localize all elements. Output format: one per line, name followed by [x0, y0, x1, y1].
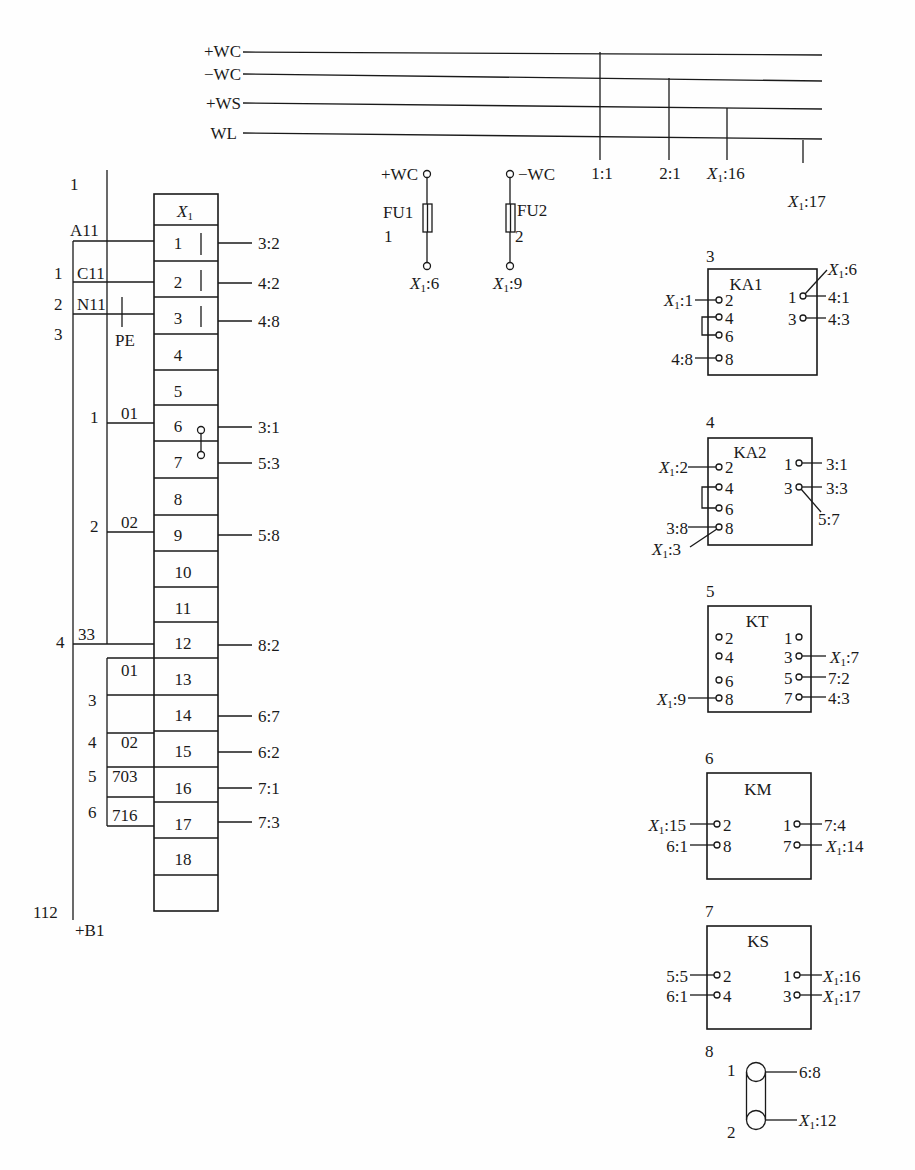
pin-connection: X1:6: [828, 261, 857, 280]
terminal-number: 5: [174, 383, 183, 400]
cable-core-number: 5: [88, 768, 97, 785]
wiring-diagram: +WC −WC +WS WL 1:1 2:1 X1:16 X1:17 +WC F…: [0, 0, 915, 1170]
pin-number: 3: [788, 311, 797, 328]
pin-connection: X1:12: [799, 1112, 837, 1131]
device-name: KA1: [729, 276, 762, 293]
pin-number: 3: [783, 988, 792, 1005]
pin-connection: X1:17: [823, 988, 861, 1007]
pin-connection: 3:8: [666, 520, 688, 537]
terminal-connection: 5:3: [258, 455, 280, 472]
pin-number: 4: [723, 988, 732, 1005]
terminal-number: 4: [174, 347, 183, 364]
cable-core-number: 2: [54, 296, 63, 313]
pin-number: 7: [784, 690, 793, 707]
pin-connection: X1:16: [823, 968, 861, 987]
cable-core-number: 1: [90, 409, 99, 426]
pin-number: 8: [725, 520, 734, 537]
pin-connection: 3:1: [826, 456, 848, 473]
pin-connection: 4:8: [671, 351, 693, 368]
pin-connection: X1:3: [652, 541, 681, 560]
terminal-connection: 6:2: [258, 744, 280, 761]
device-name: KS: [747, 933, 769, 950]
pin-number: 6: [725, 501, 734, 518]
pin-number: 1: [727, 1062, 736, 1079]
terminal-number: 18: [175, 851, 192, 868]
fuse-number: 2: [515, 228, 524, 245]
terminal-number: 14: [175, 707, 192, 724]
cable-core-number: 2: [90, 518, 99, 535]
device-index: 3: [706, 248, 715, 265]
device-name: KA2: [733, 444, 766, 461]
bus-tap-label: X1:16: [707, 165, 745, 184]
cable-core-number: 112: [33, 904, 58, 921]
pin-connection: 4:1: [828, 289, 850, 306]
bus-label: −WC: [204, 66, 241, 83]
pin-connection: 5:7: [818, 511, 840, 528]
pin-number: 1: [784, 456, 793, 473]
wire-label: 716: [112, 807, 138, 824]
terminal-number: 13: [175, 671, 192, 688]
pin-connection: 6:8: [799, 1064, 821, 1081]
terminal-number: 6: [174, 418, 183, 435]
terminal-number: 15: [175, 743, 192, 760]
pin-connection: 6:1: [666, 988, 688, 1005]
pin-number: 4: [725, 480, 734, 497]
wire-label: C11: [77, 265, 105, 282]
pin-connection: X1:14: [826, 838, 864, 857]
pin-number: 1: [783, 817, 792, 834]
fuse-dest-label: X1:6: [410, 275, 439, 294]
pin-number: 3: [784, 480, 793, 497]
pin-connection: X1:2: [659, 459, 688, 478]
terminal-number: 2: [174, 274, 183, 291]
wire-label: 01: [121, 662, 138, 679]
device-index: 7: [705, 903, 714, 920]
cable-core-number: 3: [88, 692, 97, 709]
pin-number: 1: [783, 968, 792, 985]
terminal-number: 9: [174, 527, 183, 544]
pin-number: 4: [725, 310, 734, 327]
wire-label: PE: [115, 332, 135, 349]
device-name: KT: [746, 613, 769, 630]
pin-connection: 4:3: [828, 311, 850, 328]
bus-label: +WS: [206, 95, 241, 112]
pin-number: 2: [725, 630, 734, 647]
terminal-connection: 8:2: [258, 637, 280, 654]
pin-number: 8: [725, 691, 734, 708]
bus-label: +WC: [204, 43, 241, 60]
terminal-connection: 3:1: [258, 419, 280, 436]
terminal-number: 11: [175, 600, 191, 617]
pin-number: 3: [784, 649, 793, 666]
device-index: 5: [706, 583, 715, 600]
wire-label: 02: [121, 734, 138, 751]
pin-connection: 4:3: [828, 690, 850, 707]
pin-number: 2: [725, 459, 734, 476]
terminal-connection: 7:1: [258, 780, 280, 797]
pin-number: 2: [725, 292, 734, 309]
cable-core-number: 3: [54, 326, 63, 343]
fuse-name: FU1: [383, 204, 413, 221]
fuse-name: FU2: [517, 202, 547, 219]
device-index: 4: [706, 414, 715, 431]
terminal-number: 1: [174, 235, 183, 252]
bus-label: WL: [211, 125, 237, 142]
cable-name: +B1: [75, 922, 104, 939]
fuse-dest-label: X1:9: [493, 275, 522, 294]
terminal-number: 16: [175, 780, 192, 797]
pin-connection: 6:1: [666, 838, 688, 855]
device-index: 8: [705, 1043, 714, 1060]
pin-number: 5: [784, 670, 793, 687]
pin-number: 8: [725, 351, 734, 368]
wire-label: N11: [77, 296, 106, 313]
wire-lines: [0, 0, 915, 1170]
pin-number: 6: [725, 328, 734, 345]
pin-number: 7: [783, 838, 792, 855]
wire-label: 703: [112, 768, 138, 785]
terminal-number: 17: [175, 816, 192, 833]
fuse-supply-label: −WC: [518, 166, 555, 183]
pin-number: 2: [723, 968, 732, 985]
terminal-number: 12: [175, 635, 192, 652]
cable-core-number: 1: [70, 176, 79, 193]
terminal-connection: 4:2: [258, 275, 280, 292]
pin-connection: 3:3: [826, 480, 848, 497]
terminal-connection: 6:7: [258, 708, 280, 725]
